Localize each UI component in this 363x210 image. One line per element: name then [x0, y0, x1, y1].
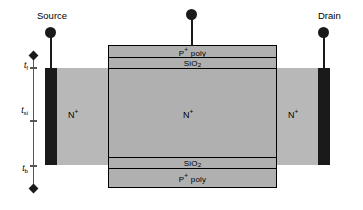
source-terminal-label: Source [37, 10, 67, 21]
dimension-tick-body-mid [30, 120, 37, 122]
gate-terminal-dot[interactable] [186, 9, 197, 20]
bottom-gate-electrode-label: P+ poly [179, 172, 206, 184]
bottom-gate-electrode-layer: P+ poly [109, 169, 276, 187]
channel-region-superscript: + [190, 108, 194, 115]
top-gate-oxide-label: SiO2 [184, 59, 202, 68]
drain-terminal-label: Drain [318, 10, 341, 21]
dimension-tick-back-oxide [30, 165, 37, 167]
dimension-endpoint-top [29, 51, 39, 61]
dimension-label-t-si: tsi [8, 105, 28, 115]
drain-region-superscript: + [295, 108, 299, 115]
source-terminal-dot[interactable] [45, 27, 56, 38]
bottom-gate-oxide-layer: SiO2 [109, 157, 276, 169]
source-region-superscript: + [75, 108, 79, 115]
dimension-label-t-back: tb [8, 163, 28, 173]
dimension-label-t-back-subscript: b [25, 167, 28, 174]
dimension-label-t-front: tf [8, 60, 28, 70]
dimension-label-t-front-subscript: f [26, 64, 28, 71]
dimension-tick-front-oxide [30, 67, 37, 69]
top-gate-oxide-layer: SiO2 [109, 58, 276, 69]
channel-region-label: N+ [183, 108, 193, 120]
dimension-label-t-si-subscript: si [24, 109, 28, 116]
source-contact-bar [45, 68, 57, 165]
drain-contact-bar [318, 68, 330, 165]
bottom-gate-oxide-label: SiO2 [184, 159, 202, 168]
device-cross-section-diagram: N+ N+ P+ poly SiO2 SiO2 P+ poly N+ Sourc… [0, 0, 363, 210]
source-region-label: N+ [68, 108, 78, 120]
bottom-gate-oxide-subscript: 2 [198, 161, 202, 168]
top-gate-electrode-label: P+ poly [179, 46, 206, 58]
dimension-axis-line [33, 56, 34, 189]
top-gate-electrode-layer: P+ poly [109, 46, 276, 58]
drain-terminal-dot[interactable] [318, 27, 329, 38]
top-gate-oxide-subscript: 2 [198, 61, 202, 68]
gate-terminal-stem [191, 16, 193, 46]
dimension-endpoint-bottom [29, 184, 39, 194]
drain-region-label: N+ [288, 108, 298, 120]
